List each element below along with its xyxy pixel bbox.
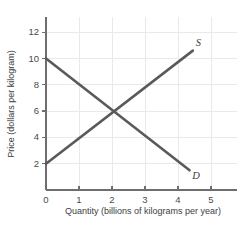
x-tick-label: 5 xyxy=(208,194,213,205)
curve-labels: SD xyxy=(191,37,201,181)
y-tick-label: 10 xyxy=(28,53,39,64)
x-tick-label: 2 xyxy=(109,194,114,205)
x-tick-label: 3 xyxy=(142,194,147,205)
x-axis-title: Quantity (billions of kilograms per year… xyxy=(65,206,221,216)
curve-label-s: S xyxy=(196,37,202,48)
y-tick-label: 6 xyxy=(34,105,39,116)
curves xyxy=(46,51,193,171)
origin-label: 0 xyxy=(43,194,48,205)
curve-label-d: D xyxy=(191,170,200,181)
x-tick-label: 4 xyxy=(175,194,180,205)
y-tick-label: 4 xyxy=(34,131,39,142)
gridlines xyxy=(46,17,237,190)
y-tick-label: 12 xyxy=(28,26,39,37)
curve-s xyxy=(46,51,193,164)
y-axis-title: Price (dollars per kilogram) xyxy=(6,50,16,158)
y-tick-label: 8 xyxy=(34,79,39,90)
supply-demand-chart: 24681012012345 SD Quantity (billions of … xyxy=(0,0,250,226)
curve-d xyxy=(46,59,190,171)
x-tick-label: 1 xyxy=(76,194,81,205)
chart-canvas: 24681012012345 SD Quantity (billions of … xyxy=(0,0,250,226)
y-tick-label: 2 xyxy=(34,158,39,169)
